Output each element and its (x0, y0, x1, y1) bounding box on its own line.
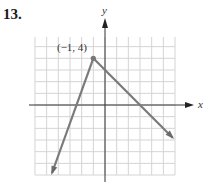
x-axis-label: x (197, 98, 203, 110)
vertex-point (91, 56, 96, 61)
left-ray-arrow-icon (51, 165, 57, 174)
y-axis-label: y (101, 4, 107, 16)
vertex-label: (−1, 4) (57, 41, 87, 54)
x-axis-arrow-icon (185, 102, 194, 108)
graph: x y (−1, 4) (0, 0, 210, 187)
y-axis-arrow-icon (102, 18, 108, 28)
